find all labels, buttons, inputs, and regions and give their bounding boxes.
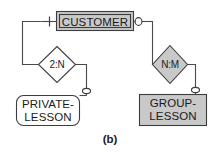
entity-group-lesson[interactable]: GROUP- LESSON (140, 95, 207, 126)
connector-private-lesson-top (80, 88, 91, 95)
entity-private-lesson[interactable]: PRIVATE- LESSON (17, 96, 80, 126)
relationship-2n[interactable]: 2:N (39, 47, 76, 83)
edge-customer-to-nm (142, 22, 153, 65)
edge-nm-to-group-lesson (187, 65, 196, 89)
figure-caption: (b) (103, 133, 118, 145)
edge-customer-to-2n (23, 22, 42, 65)
private-lesson-label-line2: LESSON (24, 111, 71, 123)
optional-circle-icon (135, 18, 142, 26)
group-lesson-label-line2: LESSON (149, 110, 196, 122)
er-diagram-canvas: CUSTOMER 2:N N:M PRIVATE- LESSON (0, 0, 221, 153)
group-lesson-label-line1: GROUP- (150, 97, 197, 109)
entity-customer[interactable]: CUSTOMER (57, 12, 134, 31)
connector-customer-right (134, 18, 153, 26)
diamond-2n-label: 2:N (50, 59, 65, 70)
customer-label: CUSTOMER (62, 16, 128, 28)
edge-2n-to-private-lesson (75, 65, 87, 90)
diamond-nm-label: N:M (161, 59, 179, 70)
relationship-nm[interactable]: N:M (153, 46, 188, 84)
er-diagram-figure: CUSTOMER 2:N N:M PRIVATE- LESSON (0, 0, 221, 153)
connector-customer-left (42, 17, 57, 27)
optional-circle-icon (83, 88, 91, 93)
private-lesson-label-line1: PRIVATE- (22, 98, 74, 110)
optional-circle-icon (192, 87, 200, 92)
connector-group-lesson-top (192, 87, 200, 94)
